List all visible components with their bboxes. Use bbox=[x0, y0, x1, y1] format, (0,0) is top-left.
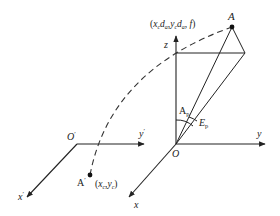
label-z: z bbox=[163, 39, 168, 50]
label-x-prime: x′ bbox=[17, 190, 24, 202]
label-elevation-angle: Ep bbox=[198, 117, 208, 129]
projection-lines bbox=[176, 27, 245, 144]
label-O-prime: O′ bbox=[67, 130, 76, 142]
projection-diagram: A (xcda,ycda, f) z y x O O′ y′ x′ A′ (xc… bbox=[0, 0, 280, 216]
image-plane-axes bbox=[27, 144, 144, 197]
line-A-to-vertex bbox=[232, 27, 245, 53]
point-A bbox=[230, 25, 235, 30]
dashed-projection-arc bbox=[90, 27, 232, 175]
label-azimuth-angle: Ap bbox=[179, 105, 189, 117]
label-O: O bbox=[172, 148, 179, 159]
label-A-prime-coords: (xc,yc) bbox=[95, 179, 118, 190]
label-A-coords: (xcda,ycda, f) bbox=[150, 19, 195, 30]
line-O-to-vertex bbox=[176, 53, 245, 144]
label-y-prime: y′ bbox=[138, 127, 145, 139]
label-x: x bbox=[133, 199, 139, 210]
x-axis bbox=[129, 144, 176, 197]
label-A-prime: A′ bbox=[77, 176, 86, 188]
label-A: A bbox=[227, 10, 235, 22]
label-y: y bbox=[256, 128, 262, 139]
point-A-prime bbox=[88, 173, 93, 178]
x-prime-axis bbox=[27, 144, 77, 197]
